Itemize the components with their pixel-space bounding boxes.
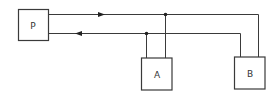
arrow-right-icon xyxy=(98,12,105,17)
node-p: P xyxy=(19,10,49,41)
node-b: B xyxy=(235,57,266,89)
junction-dot-bottom xyxy=(145,32,149,36)
node-b-label: B xyxy=(247,69,253,79)
node-a: A xyxy=(142,58,173,90)
node-a-label: A xyxy=(154,70,161,80)
arrow-left-icon xyxy=(75,31,82,36)
wiring-diagram: P A B xyxy=(0,0,279,98)
outgoing-wire xyxy=(48,15,259,58)
return-wire xyxy=(48,34,241,58)
junction-dot-top xyxy=(164,13,168,17)
node-p-label: P xyxy=(30,21,36,31)
